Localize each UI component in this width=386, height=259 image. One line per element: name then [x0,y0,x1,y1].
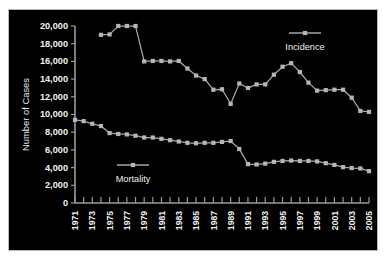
data-point-mortality [211,141,215,145]
data-point-mortality [324,161,328,165]
data-point-incidence [298,70,302,74]
data-point-mortality [203,141,207,145]
data-point-mortality [185,141,189,145]
x-tick-label: 2001 [330,211,340,230]
data-point-mortality [116,132,120,136]
legend-mortality-marker [131,163,135,167]
data-point-mortality [168,138,172,142]
legend-mortality-label: Mortality [116,174,151,184]
x-tick-label: 1985 [191,211,201,230]
data-point-mortality [272,160,276,164]
data-point-incidence [185,66,189,70]
data-point-incidence [125,24,129,28]
data-point-mortality [142,135,146,139]
x-tick-label: 1995 [278,211,288,230]
line-chart: 02,0004,0006,0008,00010,00012,00014,0001… [9,10,377,250]
data-point-mortality [220,140,224,144]
y-tick-label: 14,000 [40,74,68,84]
data-point-incidence [177,59,181,63]
x-tick-label: 1993 [260,211,270,230]
data-point-incidence [254,82,258,86]
data-point-mortality [254,162,258,166]
y-tick-label: 18,000 [40,39,68,49]
data-point-mortality [73,118,77,122]
data-point-incidence [306,81,310,85]
data-point-mortality [90,122,94,126]
y-tick-label: 12,000 [40,92,68,102]
x-tick-label: 1971 [70,211,80,230]
x-tick-label: 1981 [157,211,167,230]
data-point-incidence [168,59,172,63]
y-tick-label: 16,000 [40,56,68,66]
data-point-incidence [272,73,276,77]
data-point-mortality [82,119,86,123]
legend-incidence-marker [303,31,307,35]
data-point-incidence [116,24,120,28]
y-tick-label: 8,000 [45,127,68,137]
data-point-incidence [211,88,215,92]
data-point-mortality [298,159,302,163]
data-point-incidence [280,65,284,69]
y-tick-label: 6,000 [45,145,68,155]
data-point-incidence [332,88,336,92]
x-tick-label: 1975 [105,211,115,230]
data-point-incidence [350,96,354,100]
y-tick-label: 0 [63,198,68,208]
data-point-mortality [237,147,241,151]
x-tick-label: 2003 [347,211,357,230]
data-point-mortality [177,139,181,143]
data-point-incidence [358,109,362,113]
data-point-incidence [263,82,267,86]
data-point-incidence [142,59,146,63]
y-tick-label: 2,000 [45,180,68,190]
x-tick-label: 1999 [312,211,322,230]
y-tick-label: 10,000 [40,109,68,119]
legend-incidence-label: Incidence [285,42,324,52]
data-point-incidence [315,89,319,93]
data-point-mortality [133,134,137,138]
data-point-incidence [246,86,250,90]
data-point-mortality [159,137,163,141]
data-point-mortality [367,169,371,173]
data-point-mortality [280,159,284,163]
data-point-incidence [229,102,233,106]
x-tick-label: 2005 [364,211,374,230]
data-point-incidence [289,61,293,65]
data-point-incidence [159,59,163,63]
x-tick-label: 1977 [122,211,132,230]
data-point-incidence [133,24,137,28]
data-point-incidence [220,87,224,91]
data-point-mortality [246,162,250,166]
data-point-mortality [289,158,293,162]
data-point-mortality [229,139,233,143]
data-point-incidence [107,32,111,36]
chart-plot-area: 02,0004,0006,0008,00010,00012,00014,0001… [9,10,377,250]
data-point-incidence [203,77,207,81]
data-point-mortality [263,162,267,166]
x-tick-label: 1989 [226,211,236,230]
data-point-mortality [151,135,155,139]
data-point-incidence [367,110,371,114]
data-point-incidence [341,88,345,92]
chart-figure: 02,0004,0006,0008,00010,00012,00014,0001… [8,9,378,251]
data-point-mortality [306,159,310,163]
data-point-mortality [358,166,362,170]
series-line-incidence [101,26,369,112]
data-point-mortality [125,132,129,136]
data-point-mortality [315,159,319,163]
x-tick-label: 1973 [87,211,97,230]
data-point-incidence [324,88,328,92]
data-point-mortality [341,165,345,169]
y-tick-label: 20,000 [40,21,68,31]
data-point-incidence [194,73,198,77]
data-point-mortality [194,141,198,145]
data-point-incidence [151,59,155,63]
x-tick-label: 1987 [209,211,219,230]
data-point-incidence [237,81,241,85]
data-point-mortality [107,131,111,135]
x-tick-label: 1997 [295,211,305,230]
x-tick-label: 1983 [174,211,184,230]
y-axis-title: Number of Cases [20,78,31,151]
data-point-mortality [332,163,336,167]
data-point-incidence [99,33,103,37]
